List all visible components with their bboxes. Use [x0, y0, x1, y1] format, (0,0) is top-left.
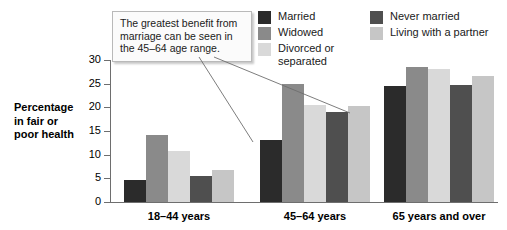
bar[interactable] — [472, 76, 494, 202]
bar[interactable] — [282, 84, 304, 202]
x-axis-line — [104, 202, 498, 203]
bar[interactable] — [406, 67, 428, 202]
y-tick-label: 10 — [89, 148, 101, 160]
bar[interactable] — [304, 105, 326, 202]
y-axis-title: Percentage in fair or poor health — [14, 101, 98, 142]
bar[interactable] — [384, 86, 406, 202]
legend-swatch-icon — [370, 27, 383, 40]
bar-group-2: 65 years and over — [384, 60, 494, 202]
legend-item-left-1[interactable]: Widowed — [258, 26, 368, 40]
bar-chart-figure: Percentage in fair or poor health Marrie… — [0, 0, 507, 230]
y-tick-mark — [104, 131, 110, 132]
bar[interactable] — [260, 140, 282, 202]
bar[interactable] — [212, 170, 234, 202]
callout-annotation: The greatest benefit from marriage can b… — [112, 11, 252, 62]
legend-item-label: Widowed — [278, 26, 323, 39]
y-tick-label: 20 — [89, 100, 101, 112]
legend-item-label: Married — [278, 10, 315, 23]
bar-group-1: 45–64 years — [260, 60, 370, 202]
plot-area: 051015202530 18–44 years45–64 years65 ye… — [110, 60, 498, 202]
y-tick-mark — [104, 84, 110, 85]
bar[interactable] — [168, 151, 190, 202]
bar[interactable] — [190, 176, 212, 202]
y-tick-mark — [104, 107, 110, 108]
legend-swatch-icon — [258, 27, 271, 40]
y-tick-label: 15 — [89, 124, 101, 136]
x-axis-group-label: 45–64 years — [260, 210, 370, 222]
legend-item-label: Never married — [390, 10, 460, 23]
legend: MarriedWidowedDivorced or separated Neve… — [258, 10, 503, 66]
y-axis-line — [110, 60, 111, 202]
x-axis-group-label: 18–44 years — [124, 210, 234, 222]
legend-item-label: Living with a partner — [390, 26, 488, 39]
y-tick-label: 25 — [89, 77, 101, 89]
y-axis-title-line-3: poor health — [14, 128, 98, 142]
legend-item-left-0[interactable]: Married — [258, 10, 368, 24]
legend-swatch-icon — [258, 43, 271, 56]
legend-item-right-0[interactable]: Never married — [370, 10, 503, 24]
y-axis-title-line-2: in fair or — [14, 115, 98, 129]
legend-column-right: Never marriedLiving with a partner — [370, 10, 503, 42]
legend-item-right-1[interactable]: Living with a partner — [370, 26, 503, 40]
y-tick-label: 5 — [95, 171, 101, 183]
bar[interactable] — [450, 85, 472, 202]
y-tick-mark — [104, 60, 110, 61]
bar[interactable] — [326, 112, 348, 202]
x-axis-group-label: 65 years and over — [384, 210, 494, 222]
y-axis-title-line-1: Percentage — [14, 101, 98, 115]
y-tick-label: 0 — [95, 195, 101, 207]
y-tick-mark — [104, 202, 110, 203]
y-tick-label: 30 — [89, 53, 101, 65]
bar[interactable] — [146, 135, 168, 202]
bar-group-0: 18–44 years — [124, 60, 234, 202]
legend-swatch-icon — [258, 11, 271, 24]
y-tick-mark — [104, 155, 110, 156]
y-tick-mark — [104, 178, 110, 179]
legend-swatch-icon — [370, 11, 383, 24]
bar[interactable] — [124, 180, 146, 202]
bar[interactable] — [428, 69, 450, 202]
bar[interactable] — [348, 106, 370, 202]
